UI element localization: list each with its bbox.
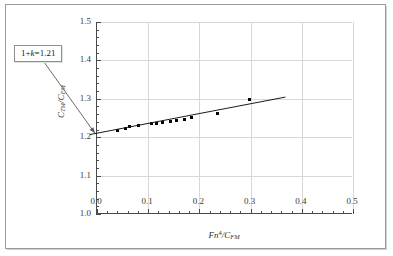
annotation-value: 1.21 xyxy=(40,48,56,58)
tick-x-minor xyxy=(240,211,241,214)
data-point-marker xyxy=(128,125,131,128)
tick-y-major xyxy=(96,137,101,138)
tick-y-minor xyxy=(96,191,99,192)
x-tick-label: 0.2 xyxy=(183,196,213,206)
y-tick-label: 1.3 xyxy=(70,93,91,103)
gridline-vertical xyxy=(199,22,200,213)
tick-y-minor xyxy=(96,30,99,31)
gridline-vertical xyxy=(353,22,354,213)
tick-x-minor xyxy=(210,211,211,214)
tick-x-minor xyxy=(107,211,108,214)
data-point-marker xyxy=(183,118,186,121)
tick-x-major xyxy=(353,209,354,214)
gridline-horizontal xyxy=(97,99,352,100)
tick-x-minor xyxy=(158,211,159,214)
tick-y-minor xyxy=(96,145,99,146)
tick-y-minor xyxy=(96,37,99,38)
x-tick-label: 0.5 xyxy=(337,196,367,206)
data-point-marker xyxy=(161,121,164,124)
tick-x-minor xyxy=(220,211,221,214)
data-point-marker xyxy=(190,116,193,119)
tick-x-minor xyxy=(189,211,190,214)
y-axis-title-divider: /C xyxy=(56,94,66,103)
tick-x-major xyxy=(148,209,149,214)
data-point-marker xyxy=(175,119,178,122)
tick-x-minor xyxy=(128,211,129,214)
tick-x-minor xyxy=(261,211,262,214)
data-point-marker xyxy=(150,122,153,125)
x-axis-title-divider: /C xyxy=(222,230,231,240)
tick-y-minor xyxy=(96,76,99,77)
y-tick-label: 1.2 xyxy=(70,131,91,141)
tick-x-minor xyxy=(343,211,344,214)
tick-x-minor xyxy=(322,211,323,214)
data-point-marker xyxy=(124,127,127,130)
tick-y-minor xyxy=(96,183,99,184)
tick-y-minor xyxy=(96,83,99,84)
tick-x-minor xyxy=(169,211,170,214)
x-tick-label: 0.4 xyxy=(286,196,316,206)
tick-x-minor xyxy=(292,211,293,214)
tick-y-minor xyxy=(96,206,99,207)
tick-x-minor xyxy=(281,211,282,214)
tick-y-minor xyxy=(96,168,99,169)
data-point-marker xyxy=(169,120,172,123)
x-tick-label: 0.3 xyxy=(235,196,265,206)
y-axis-title: CTM/CFM xyxy=(56,85,66,118)
tick-y-major xyxy=(96,99,101,100)
tick-y-minor xyxy=(96,45,99,46)
x-axis-title-main: Fn xyxy=(208,230,218,240)
tick-y-minor xyxy=(96,91,99,92)
tick-y-major xyxy=(96,214,101,215)
tick-y-minor xyxy=(96,53,99,54)
y-tick-label: 1.0 xyxy=(70,208,91,218)
y-tick-label: 1.5 xyxy=(70,16,91,26)
tick-y-major xyxy=(96,22,101,23)
tick-y-minor xyxy=(96,130,99,131)
chart-figure: 0.00.10.20.30.40.5 1.01.11.21.31.41.5 Fn… xyxy=(0,0,393,256)
tick-y-major xyxy=(96,60,101,61)
tick-x-major xyxy=(199,209,200,214)
gridline-horizontal xyxy=(97,22,352,23)
x-tick-label: 0.0 xyxy=(81,196,111,206)
tick-y-minor xyxy=(96,160,99,161)
annotation-prefix: 1+ xyxy=(21,48,31,58)
x-tick-label: 0.1 xyxy=(132,196,162,206)
y-axis-title-subscript-2: FM xyxy=(59,85,66,94)
data-point-marker xyxy=(155,122,158,125)
tick-x-minor xyxy=(179,211,180,214)
data-point-marker xyxy=(248,98,251,101)
tick-x-minor xyxy=(117,211,118,214)
tick-y-major xyxy=(96,176,101,177)
tick-y-minor xyxy=(96,68,99,69)
tick-y-minor xyxy=(96,114,99,115)
gridline-vertical xyxy=(302,22,303,213)
tick-x-minor xyxy=(138,211,139,214)
plot-area xyxy=(96,22,352,214)
tick-x-minor xyxy=(230,211,231,214)
tick-x-major xyxy=(251,209,252,214)
tick-y-minor xyxy=(96,106,99,107)
y-tick-label: 1.1 xyxy=(70,170,91,180)
gridline-vertical xyxy=(148,22,149,213)
gridline-horizontal xyxy=(97,176,352,177)
gridline-horizontal xyxy=(97,137,352,138)
y-axis-title-main: C xyxy=(56,112,66,118)
tick-x-minor xyxy=(271,211,272,214)
tick-x-major xyxy=(302,209,303,214)
tick-x-minor xyxy=(312,211,313,214)
data-point-marker xyxy=(137,124,140,127)
y-tick-label: 1.4 xyxy=(70,54,91,64)
data-point-marker xyxy=(116,129,119,132)
x-axis-title: Fn4/CFM xyxy=(96,229,352,240)
tick-x-minor xyxy=(333,211,334,214)
data-point-marker xyxy=(216,112,219,115)
tick-y-minor xyxy=(96,122,99,123)
annotation-callout-box: 1+k=1.21 xyxy=(14,45,62,62)
gridline-horizontal xyxy=(97,60,352,61)
gridline-vertical xyxy=(251,22,252,213)
x-axis-title-subscript: FM xyxy=(230,233,239,240)
y-axis-title-subscript-1: TM xyxy=(59,103,66,112)
tick-y-minor xyxy=(96,153,99,154)
